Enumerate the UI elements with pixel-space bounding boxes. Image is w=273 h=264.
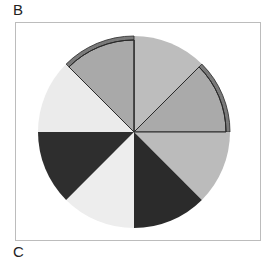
sectored-circle-diagram [0, 0, 273, 264]
panel-label-c: C [13, 244, 24, 259]
